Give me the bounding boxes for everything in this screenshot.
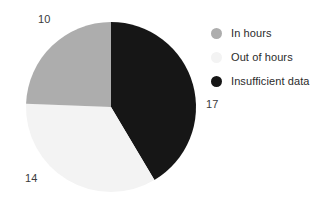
legend-item-out-of-hours[interactable]: Out of hours xyxy=(211,49,333,65)
legend-circle-marker-insufficient-data xyxy=(211,76,222,87)
data-label-in-hours: 10 xyxy=(38,14,51,25)
pie-chart: 10 17 14 In hours Out of hours Insuffici… xyxy=(0,0,333,214)
legend-label-insufficient-data: Insufficient data xyxy=(231,75,310,87)
legend-item-in-hours[interactable]: In hours xyxy=(211,25,333,41)
legend-label-out-of-hours: Out of hours xyxy=(231,51,293,63)
chart-legend: In hours Out of hours Insufficient data xyxy=(211,25,333,97)
legend-label-in-hours: In hours xyxy=(231,27,272,39)
legend-item-insufficient-data[interactable]: Insufficient data xyxy=(211,73,333,89)
legend-circle-marker-out-of-hours xyxy=(211,52,222,63)
legend-circle-marker-in-hours xyxy=(211,28,222,39)
data-label-insufficient-data: 17 xyxy=(206,99,219,110)
pie-slice-in-hours[interactable] xyxy=(26,22,111,107)
data-label-out-of-hours: 14 xyxy=(25,173,38,184)
